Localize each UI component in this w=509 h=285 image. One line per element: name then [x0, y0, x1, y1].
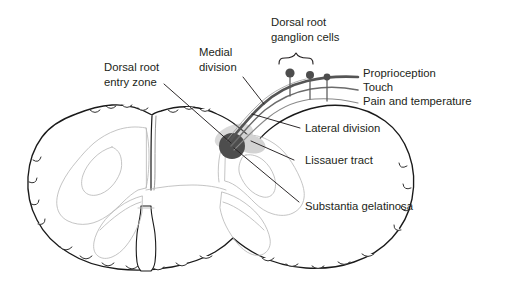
leader-medial-division — [243, 77, 264, 104]
anatomy-figure: Dorsal root entry zone Medial division D… — [0, 0, 509, 285]
label-medial-division-line2: division — [199, 61, 237, 73]
ganglion-soma-2 — [306, 71, 314, 79]
label-substantia-gelatinosa: Substantia gelatinosa — [305, 200, 414, 212]
label-ganglion-cells-line2: ganglion cells — [271, 31, 340, 43]
label-proprioception: Proprioception — [363, 67, 436, 79]
label-lateral-division: Lateral division — [305, 122, 380, 134]
spinal-cord-diagram: Dorsal root entry zone Medial division D… — [0, 0, 509, 285]
label-medial-division-line1: Medial — [199, 46, 232, 58]
label-touch: Touch — [363, 81, 393, 93]
label-dorsal-root-entry-zone-line2: entry zone — [104, 76, 157, 88]
label-lissauer-tract: Lissauer tract — [305, 154, 374, 166]
ganglion-soma-3 — [324, 74, 331, 81]
ganglion-cells-brace — [279, 53, 313, 64]
label-pain-and-temperature: Pain and temperature — [363, 95, 472, 107]
label-ganglion-cells-line1: Dorsal root — [271, 16, 327, 28]
ganglion-soma-1 — [285, 68, 294, 77]
label-dorsal-root-entry-zone-line1: Dorsal root — [104, 61, 160, 73]
